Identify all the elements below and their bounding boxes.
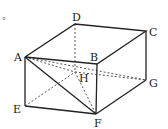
label-F: F bbox=[94, 117, 102, 129]
top-face bbox=[25, 24, 146, 64]
label-E: E bbox=[13, 103, 21, 116]
label-H: H bbox=[79, 72, 89, 85]
label-D: D bbox=[72, 11, 81, 24]
edge-EF bbox=[25, 106, 96, 114]
cuboid-diagram: A B C D E F G H ° bbox=[0, 0, 168, 129]
label-G: G bbox=[149, 77, 158, 90]
label-A: A bbox=[13, 51, 23, 64]
diagonal-AF bbox=[25, 57, 96, 114]
edge-BF bbox=[96, 64, 97, 114]
stray-mark: ° bbox=[2, 16, 6, 25]
label-C: C bbox=[149, 26, 157, 39]
edge-FG bbox=[96, 80, 146, 114]
label-B: B bbox=[90, 51, 98, 64]
